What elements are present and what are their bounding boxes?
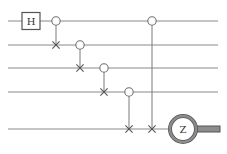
control-dot: [100, 64, 108, 72]
control-dot: [52, 17, 60, 25]
controlled-x-gate: [148, 17, 156, 133]
circuit-gates: HZ: [22, 13, 220, 143]
gate-label: H: [27, 16, 36, 27]
qubit-wires: [8, 21, 218, 129]
measurement-z: Z: [170, 116, 220, 142]
measurement-label: Z: [180, 124, 187, 135]
controlled-x-gate: [76, 41, 84, 72]
controlled-x-gate: [125, 88, 133, 133]
control-dot: [148, 17, 156, 25]
control-dot: [125, 88, 133, 96]
controlled-x-gate: [100, 64, 108, 96]
measurement-handle: [196, 126, 220, 132]
quantum-circuit-diagram: HZ: [0, 0, 227, 154]
controlled-x-gate: [52, 17, 60, 49]
gate-h: H: [22, 13, 40, 30]
control-dot: [76, 41, 84, 49]
